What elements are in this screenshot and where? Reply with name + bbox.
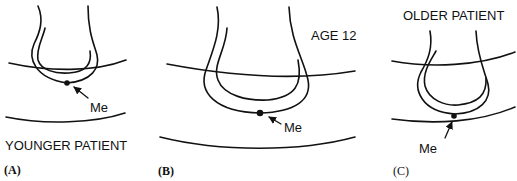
lower-reference-line (160, 137, 355, 148)
symphysis-outer-contour (32, 6, 98, 83)
menton-label: Me (90, 100, 108, 115)
panel-title: YOUNGER PATIENT (5, 138, 127, 153)
panel-title: OLDER PATIENT (403, 8, 504, 23)
menton-point (257, 110, 264, 117)
menton-label: Me (284, 120, 302, 135)
menton-point (451, 113, 457, 119)
panel-a: Me YOUNGER PATIENT (A) (4, 6, 127, 177)
symphysis-growth-diagram: Me YOUNGER PATIENT (A) Me AGE 12 (B) Me … (0, 0, 517, 181)
panel-title: AGE 12 (311, 28, 357, 43)
symphysis-outer-contour (204, 7, 308, 113)
panel-caption: (C) (393, 164, 409, 178)
menton-arrow (74, 87, 88, 98)
menton-arrow (445, 122, 452, 138)
symphysis-outer-contour (418, 31, 489, 114)
panel-c: Me OLDER PATIENT (C) (392, 8, 515, 178)
upper-reference-line (392, 52, 515, 65)
panel-caption: (A) (4, 163, 21, 177)
upper-reference-line (9, 60, 126, 69)
upper-reference-line (167, 64, 355, 76)
symphysis-inner-contour (38, 28, 91, 73)
panel-caption: (B) (158, 164, 174, 178)
symphysis-inner-contour (217, 28, 300, 100)
menton-point (64, 80, 70, 86)
menton-label: Me (419, 141, 437, 156)
panel-b: Me AGE 12 (B) (158, 7, 357, 178)
symphysis-inner-contour (424, 51, 486, 105)
menton-arrow (269, 117, 281, 124)
